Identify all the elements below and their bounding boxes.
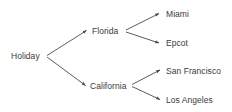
- edge-holiday-florida: [47, 31, 87, 56]
- node-los-angeles: Los Angeles: [166, 95, 213, 105]
- tree-diagram: Holiday Florida California Miami Epcot S…: [0, 0, 232, 112]
- edge-holiday-california: [47, 57, 86, 86]
- node-san-francisco: San Francisco: [166, 66, 221, 76]
- node-california: California: [90, 81, 126, 91]
- edge-california-los-angeles: [132, 87, 160, 100]
- edge-california-san-francisco: [132, 70, 160, 85]
- edge-florida-miami: [126, 14, 159, 31]
- edge-florida-epcot: [126, 32, 159, 43]
- node-miami: Miami: [166, 9, 189, 19]
- node-holiday: Holiday: [11, 51, 40, 61]
- node-epcot: Epcot: [166, 38, 188, 48]
- node-florida: Florida: [92, 26, 118, 36]
